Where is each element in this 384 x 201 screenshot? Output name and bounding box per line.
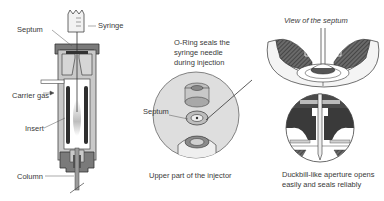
syringe-label: Syringe [98, 21, 123, 30]
insert-label: Insert [25, 124, 44, 133]
o-ring-caption-line-1: O-Ring seals the [174, 38, 230, 47]
carrier-gas-label: Carrier gas [12, 91, 49, 100]
septum-view-illustration [267, 28, 379, 87]
o-ring-caption-line-3: during injection [174, 58, 224, 67]
column-label: Column [17, 172, 43, 181]
duckbill-aperture-illustration [284, 94, 356, 162]
view-of-septum-title: View of the septum [284, 16, 348, 25]
septum-label-left: Septum [17, 25, 43, 34]
injector-upper-part-illustration [153, 72, 252, 160]
o-ring-caption-line-2: syringe needle [174, 48, 223, 57]
duckbill-caption-line-2: easily and seals reliably [282, 180, 361, 189]
duckbill-caption-line-1: Duckbill-like aperture opens [282, 170, 375, 179]
injector-cross-section [41, 10, 99, 193]
upper-part-caption: Upper part of the injector [149, 171, 232, 180]
septum-label-middle: Septum [143, 107, 169, 116]
